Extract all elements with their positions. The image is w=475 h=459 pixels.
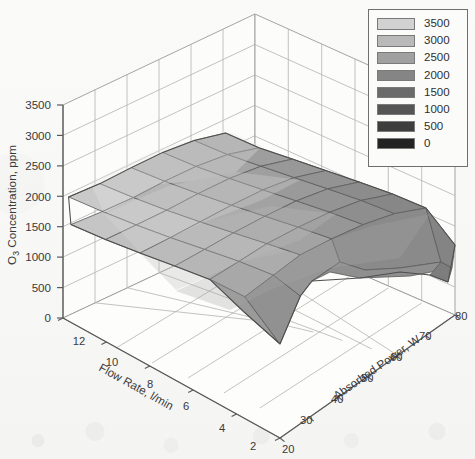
y-tick-label: 30 <box>300 414 312 426</box>
legend-item[interactable]: 1000 <box>377 102 450 116</box>
legend-item[interactable]: 2000 <box>377 68 450 82</box>
legend-swatch-1500 <box>377 87 415 99</box>
legend: 3500 3000 2500 2000 1500 1000 <box>368 9 468 167</box>
legend-item[interactable]: 1500 <box>377 85 450 99</box>
legend-swatch-2500 <box>377 52 415 64</box>
x-tick-label: 2 <box>250 440 256 452</box>
legend-item[interactable]: 3500 <box>377 17 450 31</box>
legend-label: 1000 <box>424 104 450 116</box>
legend-swatch-2000 <box>377 70 415 82</box>
z-axis-title-main: O <box>5 256 19 265</box>
z-axis-title-rest: Concentration, ppm <box>5 145 19 251</box>
legend-swatch-500 <box>377 121 415 133</box>
legend-label: 3000 <box>424 35 450 47</box>
z-tick-label: 2000 <box>25 190 51 203</box>
svg-text:O3 Concentration, ppm: O3 Concentration, ppm <box>5 145 21 265</box>
x-tick-label: 6 <box>183 400 189 412</box>
figure-screenshot: 0 500 1000 1500 2000 2500 3000 3500 O3 C… <box>0 0 475 459</box>
legend-swatch-0 <box>377 138 415 150</box>
legend-swatch-3000 <box>377 35 415 47</box>
z-tick-label: 3000 <box>25 129 51 142</box>
y-tick-label: 80 <box>455 310 467 322</box>
legend-label: 3500 <box>424 18 450 30</box>
legend-rows: 3500 3000 2500 2000 1500 1000 <box>377 17 450 151</box>
z-tick-label: 500 <box>32 281 51 294</box>
z-tick-label: 0 <box>45 311 51 324</box>
z-tick-label: 2500 <box>25 159 51 172</box>
legend-label: 2000 <box>424 70 450 82</box>
legend-item[interactable]: 3000 <box>377 34 450 48</box>
z-axis-title: O3 Concentration, ppm <box>5 145 21 265</box>
legend-label: 1500 <box>424 87 450 99</box>
z-tick-label: 1500 <box>25 220 51 233</box>
legend-label: 2500 <box>424 52 450 64</box>
x-tick-label: 4 <box>219 422 225 434</box>
legend-item[interactable]: 500 <box>377 120 450 134</box>
legend-swatch-3500 <box>377 18 415 30</box>
legend-item[interactable]: 0 <box>377 137 450 151</box>
z-tick-label: 3500 <box>25 98 51 111</box>
z-axis: 0 500 1000 1500 2000 2500 3000 3500 O3 C… <box>5 98 63 324</box>
legend-label: 500 <box>424 121 443 133</box>
legend-item[interactable]: 2500 <box>377 51 450 65</box>
z-tick-label: 1000 <box>25 250 51 263</box>
y-tick-label: 70 <box>419 330 431 342</box>
legend-label: 0 <box>424 138 430 150</box>
x-tick-label: 12 <box>73 335 85 347</box>
legend-swatch-1000 <box>377 104 415 116</box>
y-tick-label: 20 <box>282 443 294 455</box>
